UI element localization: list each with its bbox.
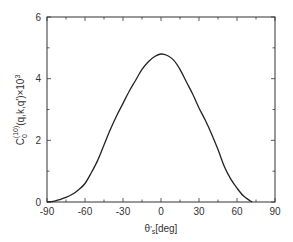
y-tick-label: 2 [35,135,41,146]
major-ticks [47,17,275,202]
data-line [47,54,252,202]
plot-frame [47,17,275,202]
y-axis-label: C0(10)(q,k,q′)×103 [12,75,28,146]
y-tick-labels: 0246 [35,12,41,208]
x-tick-label: 90 [269,206,281,217]
x-tick-label: -90 [40,206,55,217]
x-tick-label: 60 [231,206,243,217]
x-tick-label: -60 [78,206,93,217]
x-tick-labels: -90-60-300306090 [40,206,281,217]
x-tick-label: 30 [193,206,205,217]
minor-ticks [47,17,275,202]
x-axis-label: θ′s[deg] [145,223,178,235]
x-tick-label: -30 [116,206,131,217]
y-tick-label: 4 [35,73,41,84]
x-tick-label: 0 [158,206,164,217]
line-chart: -90-60-300306090 0246 θ′s[deg] C0(10)(q,… [0,0,293,242]
y-tick-label: 0 [35,197,41,208]
y-tick-label: 6 [35,12,41,23]
